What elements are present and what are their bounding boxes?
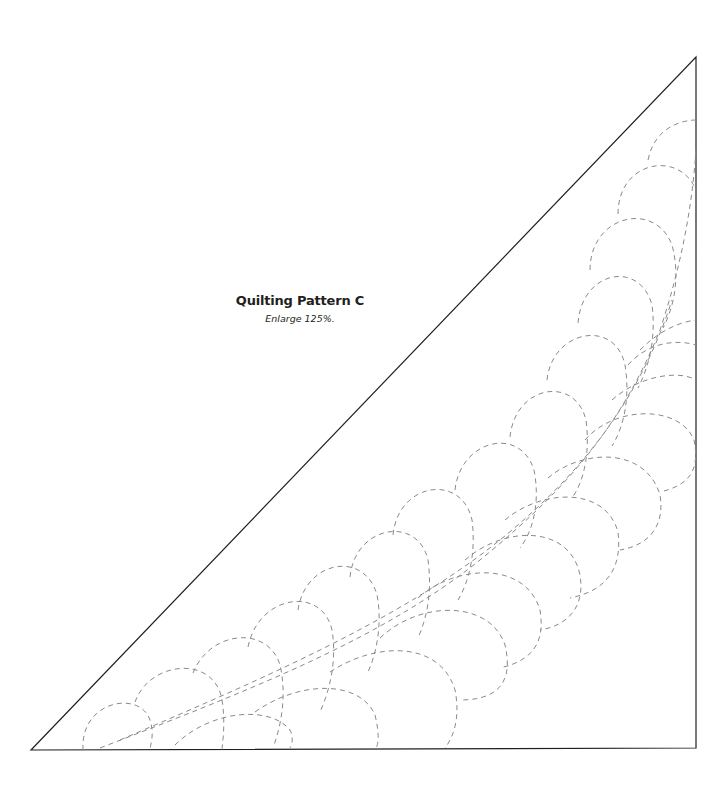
- lower-feather: [585, 414, 696, 492]
- upper-feather: [648, 120, 696, 160]
- upper-feather: [590, 219, 676, 328]
- upper-feather: [618, 166, 696, 214]
- lower-feather: [418, 573, 541, 668]
- upper-feather: [393, 489, 473, 600]
- upper-feather: [193, 638, 283, 745]
- lower-feather: [548, 457, 661, 550]
- caption: Quilting Pattern C Enlarge 125%.: [200, 293, 400, 324]
- lower-feather: [380, 610, 507, 700]
- triangle-outline: [31, 57, 696, 750]
- pattern-title: Quilting Pattern C: [200, 293, 400, 308]
- upper-feather: [510, 391, 587, 498]
- upper-feather: [83, 703, 152, 750]
- feather-stem: [100, 150, 696, 748]
- upper-feather: [547, 335, 627, 446]
- quilting-pattern-drawing: [0, 0, 728, 790]
- upper-feather: [135, 668, 224, 750]
- lower-feather: [612, 375, 696, 400]
- pattern-subtitle: Enlarge 125%.: [200, 313, 400, 324]
- lower-feather: [330, 651, 457, 748]
- upper-feather: [350, 531, 430, 638]
- lower-feather: [505, 497, 619, 598]
- feather-motif: [83, 120, 696, 750]
- lower-feather: [628, 342, 696, 365]
- upper-feather: [455, 443, 536, 548]
- lower-feather: [640, 320, 696, 350]
- lower-feather: [255, 688, 378, 748]
- feather-stem-inner: [120, 300, 672, 740]
- lower-feather: [465, 535, 581, 630]
- upper-feather: [298, 566, 379, 672]
